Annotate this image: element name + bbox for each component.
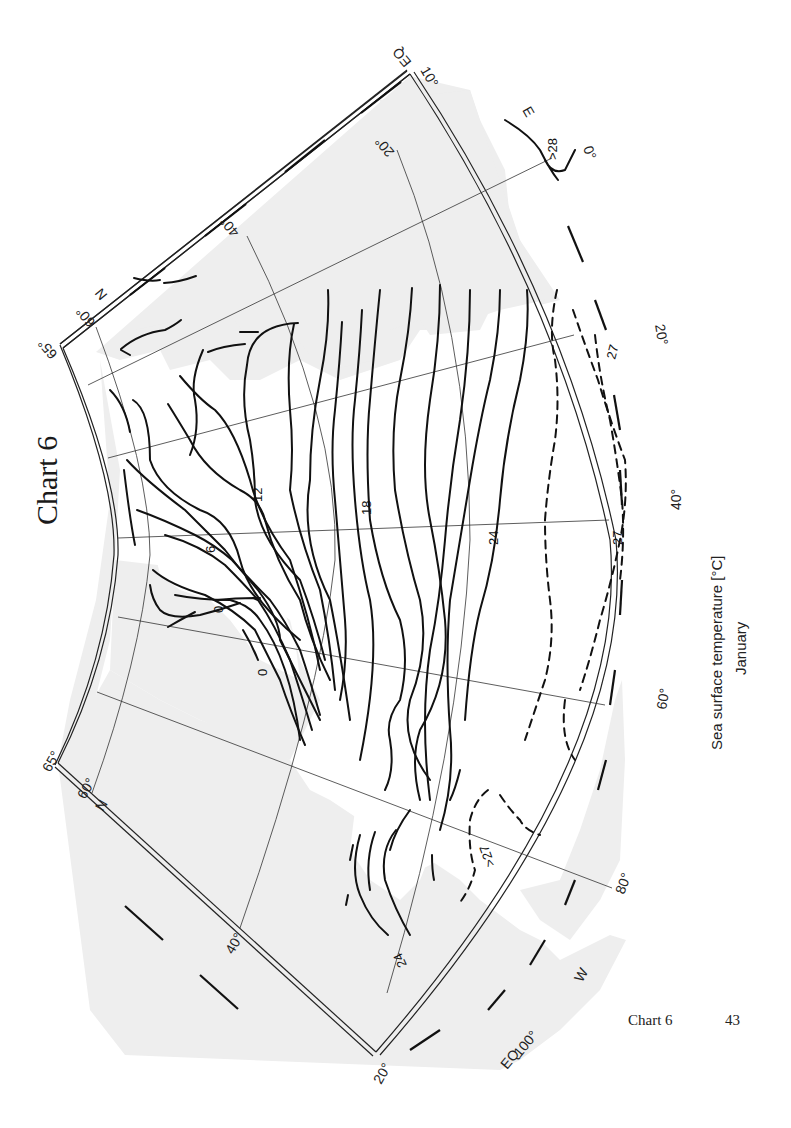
isotherm-label-18: 18	[359, 501, 374, 515]
isotherm-label-12: 12	[250, 488, 265, 502]
isotherm-label-24: 24	[486, 531, 501, 545]
label-80: 80°	[612, 871, 634, 896]
chart-title: Chart 6	[30, 436, 64, 525]
isotherm-label-27-guinea: 27	[603, 343, 621, 361]
isotherm-label-gt28: >28	[545, 138, 560, 160]
map-month: January	[732, 622, 749, 675]
page-number: 43	[725, 1012, 740, 1029]
label-60: 60°	[653, 687, 672, 711]
label-60-top: 60°	[72, 304, 98, 331]
footer-chart-label: Chart 6	[628, 1012, 673, 1029]
label-40: 40°	[668, 489, 684, 510]
label-65-top: 65°	[34, 336, 60, 363]
label-20: 20°	[652, 323, 671, 347]
isotherm-label-0a: 0	[211, 606, 226, 613]
label-0: 0°	[580, 144, 600, 162]
sst-map: 0 0 6 12 18 24 27 24 >27 >28 27 65° 60° …	[0, 0, 791, 1128]
label-e: E	[519, 104, 538, 120]
label-n-top: N	[92, 285, 111, 303]
map-subtitle: Sea surface temperature [°C]	[708, 556, 725, 750]
isotherm-label-0b: 0	[255, 669, 270, 676]
label-eq-top: EQ	[389, 44, 414, 70]
isotherm-label-27: 27	[610, 531, 625, 545]
isotherm-label-6: 6	[203, 546, 218, 553]
